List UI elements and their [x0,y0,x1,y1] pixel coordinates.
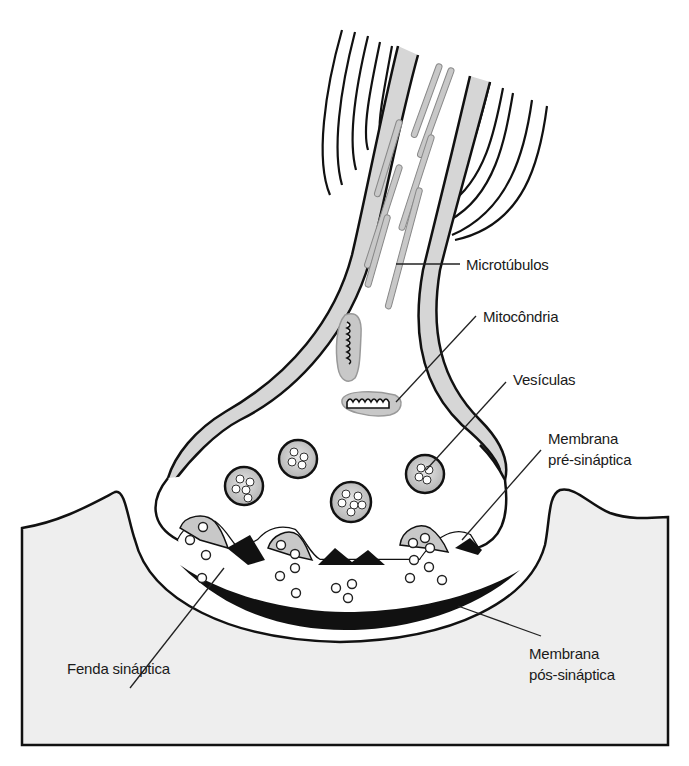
mitochondrion [342,392,401,416]
mitochondria [336,314,401,416]
label-membrana-pos-2: pós-sináptica [529,666,615,684]
vesicle [279,440,317,478]
vesicle [406,455,444,493]
label-mitocondria: Mitocôndria [483,308,558,326]
label-microtubulos: Microtúbulos [466,256,549,274]
label-membrana-pos-1: Membrana [529,645,599,663]
label-membrana-pre-2: pré-sináptica [548,451,631,469]
microtubules [364,63,455,310]
vesicle [225,467,263,505]
label-vesiculas: Vesículas [513,371,575,389]
mitochondrion [336,314,361,382]
vesicle [331,482,371,522]
label-membrana-pre-1: Membrana [548,430,618,448]
label-fenda-sinaptica: Fenda sináptica [67,660,170,678]
